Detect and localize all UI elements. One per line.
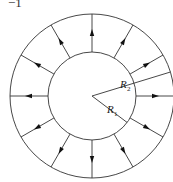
- arrowhead-icon: [59, 147, 64, 154]
- arrowhead-icon: [90, 156, 94, 163]
- arrowhead-icon: [120, 38, 125, 45]
- arrowhead-icon: [59, 38, 64, 45]
- arrowhead-icon: [34, 63, 41, 68]
- annulus-diagram: −1 R2R1: [0, 0, 173, 182]
- arrowhead-icon: [120, 147, 125, 154]
- radius-subscript: 2: [127, 85, 131, 93]
- arrowhead-icon: [25, 94, 32, 98]
- radius-subscript: 1: [114, 110, 118, 118]
- diagram-svg: R2R1: [0, 0, 173, 182]
- arrowhead-icon: [90, 29, 94, 36]
- arrowhead-icon: [143, 63, 150, 68]
- arrowhead-icon: [34, 124, 41, 129]
- arrowhead-icon: [152, 94, 159, 98]
- radius-label: R: [106, 103, 114, 115]
- arrowhead-icon: [143, 124, 150, 129]
- radius-label: R: [119, 78, 127, 90]
